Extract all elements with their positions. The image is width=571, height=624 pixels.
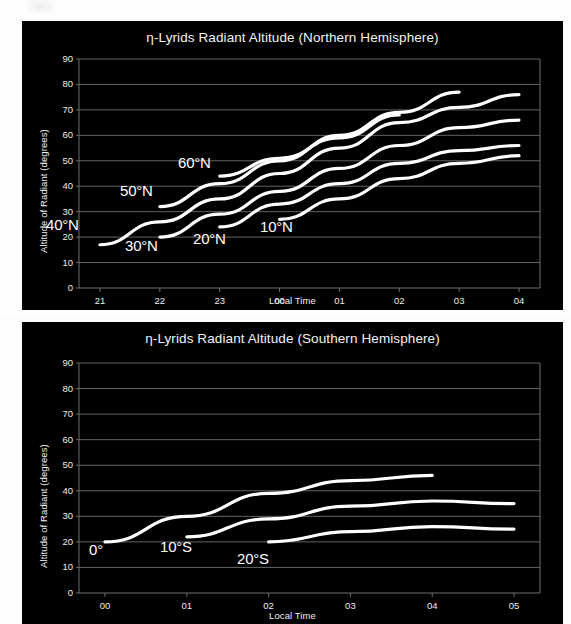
scan-artifact	[28, 0, 54, 13]
y-tick-label: 30	[43, 510, 73, 521]
x-tick-label: 00	[85, 600, 125, 611]
x-tick-label: 03	[330, 600, 370, 611]
y-tick-label: 10	[43, 257, 73, 268]
x-tick-label: 04	[499, 295, 539, 306]
y-tick-label: 90	[43, 357, 73, 368]
x-tick-label: 05	[494, 600, 534, 611]
x-tick-label: 01	[319, 295, 359, 306]
y-tick-label: 80	[43, 78, 73, 89]
chart-northern-hemisphere: η-Lyrids Radiant Altitude (Northern Hemi…	[22, 21, 563, 310]
y-tick-label: 80	[43, 383, 73, 394]
y-tick-label: 0	[43, 587, 73, 598]
series-line	[105, 475, 432, 541]
y-tick-label: 40	[43, 485, 73, 496]
x-tick-label: 02	[379, 295, 419, 306]
series-label: 60°N	[178, 154, 211, 171]
y-tick-label: 0	[43, 282, 73, 293]
series-line	[160, 92, 459, 207]
y-tick-label: 70	[43, 408, 73, 419]
y-tick-label: 30	[43, 206, 73, 217]
y-tick-label: 40	[43, 180, 73, 191]
x-tick-label: 23	[200, 295, 240, 306]
series-label: 30°N	[125, 237, 158, 254]
series-label: 20°N	[193, 230, 226, 247]
x-tick-label: 02	[249, 600, 289, 611]
x-tick-label: 22	[140, 295, 180, 306]
series-label: 20°S	[237, 550, 269, 567]
x-tick-label: 01	[167, 600, 207, 611]
x-tick-label: 03	[439, 295, 479, 306]
series-line	[269, 527, 514, 542]
x-tick-label: 00	[260, 295, 300, 306]
y-tick-label: 10	[43, 561, 73, 572]
page-background: η-Lyrids Radiant Altitude (Northern Hemi…	[0, 0, 571, 624]
y-tick-label: 90	[43, 53, 73, 64]
series-line	[280, 156, 519, 220]
y-tick-label: 60	[43, 434, 73, 445]
series-label: 50°N	[120, 182, 153, 199]
y-tick-label: 20	[43, 536, 73, 547]
series-label: 0°	[89, 541, 103, 558]
chart-southern-hemisphere: η-Lyrids Radiant Altitude (Southern Hemi…	[22, 322, 563, 624]
y-tick-label: 60	[43, 129, 73, 140]
series-label: 10°N	[260, 218, 293, 235]
y-tick-label: 70	[43, 104, 73, 115]
series-label: 10°S	[160, 538, 192, 555]
y-tick-label: 50	[43, 459, 73, 470]
series-label: 40°N	[46, 216, 79, 233]
x-tick-label: 21	[80, 295, 120, 306]
plot-area-south	[22, 322, 563, 624]
plot-area-north	[22, 21, 563, 310]
series-line	[220, 115, 400, 176]
x-tick-label: 04	[412, 600, 452, 611]
series-line	[100, 95, 519, 245]
panel-divider	[0, 312, 571, 316]
y-tick-label: 50	[43, 155, 73, 166]
